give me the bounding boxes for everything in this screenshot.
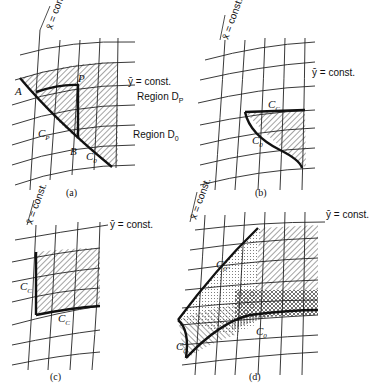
curve-cc-horizontal-label: CC [58,312,70,327]
axis-label-x-d: x̄ = const. [188,176,213,220]
caption-a: (a) [66,187,77,199]
figure-canvas: x̄ = const. ȳ = const. A P B Region DP R… [0,0,374,385]
axis-label-x-b: x̄ = const. [220,0,245,41]
axis-label-y-b: ȳ = const. [312,67,355,78]
panel-b: x̄ = const. ȳ = const. CC C0 (b) [198,0,355,199]
curve-cp-label: CP [38,127,50,142]
curve-c0-label-d: C0 [256,325,267,340]
caption-d: (d) [249,371,261,383]
axis-label-y-a: ȳ = const. [128,76,171,87]
panel-d: x̄ = const. ȳ = const. C0'' C0 C0 (d) [176,176,369,383]
region-d0-label: Region D0 [133,129,179,142]
panel-c: x̄ = const. ȳ = const. CC CC (c) [12,181,153,383]
curve-c0-label-b: C0 [252,134,263,149]
caption-b: (b) [255,187,267,199]
axis-label-x-c: x̄ = const. [24,181,49,225]
axis-label-x-a: x̄ = const. [44,0,69,31]
panel-a: x̄ = const. ȳ = const. A P B Region DP R… [12,0,184,199]
axis-label-y-c: ȳ = const. [110,219,153,230]
point-p-label: P [77,72,85,84]
axis-label-y-d: ȳ = const. [326,209,369,220]
curve-cc-vertical-label: CC [20,280,32,295]
caption-c: (c) [50,371,61,383]
region-dp-label: Region DP [137,91,184,104]
point-a-label: A [14,85,22,97]
point-b-label: B [70,145,77,157]
